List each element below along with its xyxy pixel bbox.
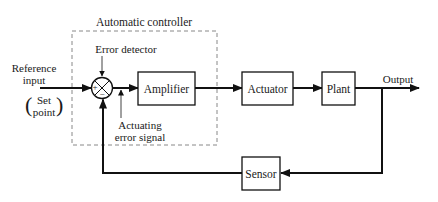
setpoint-close-paren: )	[56, 94, 63, 116]
sensor-label: Sensor	[242, 157, 280, 190]
plant-label: Plant	[322, 72, 355, 105]
minus-sign: −	[97, 88, 107, 100]
reference-input-label-line1: Reference	[4, 62, 64, 74]
amplifier-label: Amplifier	[138, 72, 195, 105]
diagram-canvas	[0, 0, 438, 202]
setpoint-label-line1: Set	[30, 94, 58, 106]
actuator-label: Actuator	[242, 72, 293, 105]
reference-input-label-line2: input	[4, 74, 64, 86]
output-label: Output	[378, 73, 418, 85]
error-detector-label: Error detector	[80, 43, 172, 55]
actuating-error-label-line2: error signal	[106, 131, 174, 143]
automatic-controller-title: Automatic controller	[80, 16, 208, 28]
actuating-error-label-line1: Actuating	[110, 119, 170, 131]
setpoint-label-line2: point	[30, 106, 58, 118]
